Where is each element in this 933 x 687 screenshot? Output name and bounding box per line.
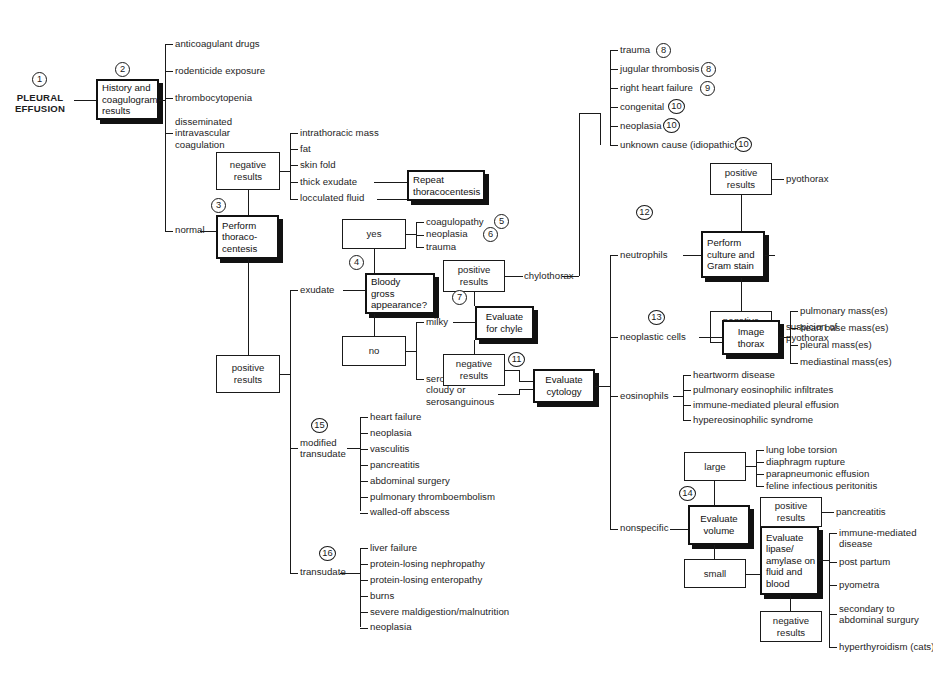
node-no-label: no [369, 345, 380, 357]
stub-skin-fold [290, 165, 298, 166]
branch-pancreatitis-lipase: pancreatitis [836, 506, 886, 517]
connector-exudate-bloody [343, 290, 365, 291]
node-perform-culture[interactable]: Perform culture and Gram stain [701, 231, 765, 278]
branch-congenital: congenital [620, 101, 664, 112]
branch-neoplasia-transudate: neoplasia [370, 621, 412, 632]
root-label: PLEURAL EFFUSION [6, 92, 74, 115]
branch-walled-off-abscess: walled-off abscess [370, 506, 450, 517]
stub-hyperthyroidism [829, 647, 837, 648]
node-yes[interactable]: yes [342, 219, 406, 249]
connector-modtransudate-spine [347, 448, 360, 449]
stub-exudate [290, 290, 298, 291]
connector-cytology-spine [595, 386, 610, 387]
node-perform-culture-label: Perform culture and Gram stain [703, 237, 754, 272]
node-negative-results-chyle[interactable]: negative results [443, 354, 505, 386]
connector-neutrophils-culture [683, 255, 701, 256]
node-evaluate-lipase-amylase[interactable]: Evaluate lipase/ amylase on fluid and bl… [760, 526, 819, 595]
node-image-thorax-label: Image thorax [738, 326, 765, 349]
step-number-4: 4 [349, 255, 364, 270]
branch-dic: disseminated intravascular coagulation [175, 116, 232, 150]
stub-heart-base-mass [790, 328, 798, 329]
node-perform-thoracocentesis[interactable]: Perform thoraco- centesis [216, 215, 279, 259]
stub-thrombocytopenia [165, 98, 173, 99]
connector-culture-spine [765, 255, 775, 256]
branch-neutrophils: neutrophils [620, 249, 667, 260]
spine-chylous-causes [610, 50, 611, 145]
node-positive-results-chyle[interactable]: positive results [443, 260, 505, 292]
connector-poschyle-chyle [474, 292, 475, 306]
spine-cytology-results [610, 255, 611, 529]
node-evaluate-volume-label: Evaluate volume [700, 513, 737, 536]
stub-locculated-fluid [290, 199, 298, 200]
stub-heartworm [683, 375, 691, 376]
spine-negative-results-causes [290, 133, 291, 199]
node-image-thorax[interactable]: Image thorax [722, 320, 780, 355]
stub-anticoagulant [165, 44, 173, 45]
node-negative-results-imaging[interactable]: negative results [216, 152, 280, 190]
connector-serous-step-h [498, 394, 519, 395]
stub-intrathoracic-mass [290, 133, 298, 134]
step-number-10-congenital: 10 [668, 99, 685, 114]
stub-pancreatitis-mt [360, 465, 368, 466]
stub-post-partum [829, 562, 837, 563]
connector-nonspecific-volume [670, 529, 688, 530]
branch-immune-mediated-effusion: immune-mediated pleural effusion [693, 399, 839, 410]
stub-nonspecific [610, 529, 618, 530]
node-evaluate-cytology[interactable]: Evaluate cytology [533, 369, 595, 403]
step-number-10-unknown: 10 [735, 137, 752, 152]
node-negative-results-lipase[interactable]: negative results [760, 611, 822, 642]
branch-neoplasia-chylous: neoplasia [620, 120, 662, 131]
stub-eosinophils [610, 396, 618, 397]
node-evaluate-volume[interactable]: Evaluate volume [688, 505, 750, 545]
stub-immune-mediated-disease [829, 533, 837, 534]
branch-jugular-thrombosis: jugular thrombosis [620, 63, 699, 74]
node-positive-results-lipase[interactable]: positive results [760, 497, 822, 527]
branch-pyometra: pyometra [839, 579, 879, 590]
node-evaluate-cytology-label: Evaluate cytology [545, 374, 582, 397]
branch-transudate-label: transudate [300, 566, 346, 577]
node-bloody-gross-appearance[interactable]: Bloody gross appearance? [365, 273, 435, 314]
branch-modified-transudate: modified transudate [300, 437, 346, 460]
node-positive-results-culture[interactable]: positive results [710, 163, 772, 195]
connector-small-lipase [746, 574, 760, 575]
branch-vasculitis: vasculitis [370, 443, 409, 454]
connector-chyle-negres [474, 340, 475, 354]
connector-volume-large [714, 479, 715, 505]
stub-diaphragm-rupture [756, 462, 764, 463]
stub-jugular-thrombosis [610, 69, 618, 70]
step-number-6: 6 [483, 227, 498, 242]
branch-skin-fold: skin fold [300, 159, 336, 170]
branch-post-partum: post partum [839, 556, 890, 567]
stub-pleural-mass [790, 345, 798, 346]
node-history-coagulogram[interactable]: History and coagulogram results [96, 79, 159, 120]
node-no[interactable]: no [342, 336, 406, 366]
branch-coagulopathy: coagulopathy [426, 216, 484, 227]
stub-neoplasia-chylous [610, 126, 618, 127]
connector-chylothorax-top [579, 113, 601, 114]
branch-intrathoracic-mass: intrathoracic mass [300, 127, 379, 138]
connector-volume-small [714, 545, 715, 559]
connector-imagethorax-spine [780, 337, 790, 338]
node-evaluate-for-chyle[interactable]: Evaluate for chyle [475, 306, 534, 340]
node-positive-results-thoracocentesis[interactable]: positive results [216, 355, 280, 393]
stub-heart-failure [360, 417, 368, 418]
step-number-5: 5 [494, 214, 509, 229]
step-number-1: 1 [32, 72, 47, 87]
node-small[interactable]: small [684, 559, 746, 588]
node-repeat-thoracocentesis[interactable]: Repeat thoracocentesis [407, 170, 485, 201]
branch-mediastinal-mass: mediastinal mass(es) [800, 356, 892, 367]
branch-heart-failure: heart failure [370, 411, 421, 422]
branch-neoplasia-bloody: neoplasia [426, 228, 468, 239]
branch-milky: milky [426, 316, 448, 327]
connector-yes-spine [406, 234, 416, 235]
connector-negres-spine [280, 171, 290, 172]
stub-milky [416, 322, 424, 323]
connector-milky-chyle [453, 322, 475, 323]
node-large[interactable]: large [684, 452, 746, 481]
connector-eosinophils-spine [673, 396, 683, 397]
step-number-13: 13 [648, 310, 665, 325]
connector-poslipase-pancreatitis [822, 512, 834, 513]
node-yes-label: yes [367, 228, 382, 240]
node-negative-results-imaging-label: negative results [230, 159, 266, 182]
stub-neoplastic-cells [610, 337, 618, 338]
